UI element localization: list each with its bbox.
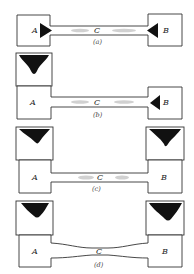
diagram-canvas: A B C (a) A B C (b) A B C (c) A xyxy=(0,0,194,274)
panel-d: A B C (d) xyxy=(16,201,184,269)
label-b: B xyxy=(160,173,167,182)
label-a: A xyxy=(31,173,38,182)
gas-streak xyxy=(112,29,136,33)
gas-streak xyxy=(78,176,94,180)
gas-streak xyxy=(71,100,89,104)
label-c: C xyxy=(96,247,102,256)
label-b: B xyxy=(161,247,168,256)
label-a: A xyxy=(29,98,36,107)
panel-a: A B C (a) xyxy=(17,14,182,46)
caption-c: (c) xyxy=(92,185,101,193)
caption-d: (d) xyxy=(94,261,104,269)
gas-streak xyxy=(115,176,129,180)
label-a: A xyxy=(31,26,38,35)
label-b: B xyxy=(162,98,169,107)
label-c: C xyxy=(94,98,100,107)
label-b: B xyxy=(162,26,169,35)
panel-c: A B C (c) xyxy=(16,127,184,193)
panel-b: A B C (b) xyxy=(16,53,182,119)
label-c: C xyxy=(97,173,103,182)
label-a: A xyxy=(31,247,38,256)
gas-streak xyxy=(114,100,134,104)
label-c: C xyxy=(94,26,100,35)
gas-streak xyxy=(71,29,89,33)
caption-b: (b) xyxy=(93,111,103,119)
caption-a: (a) xyxy=(93,38,102,46)
